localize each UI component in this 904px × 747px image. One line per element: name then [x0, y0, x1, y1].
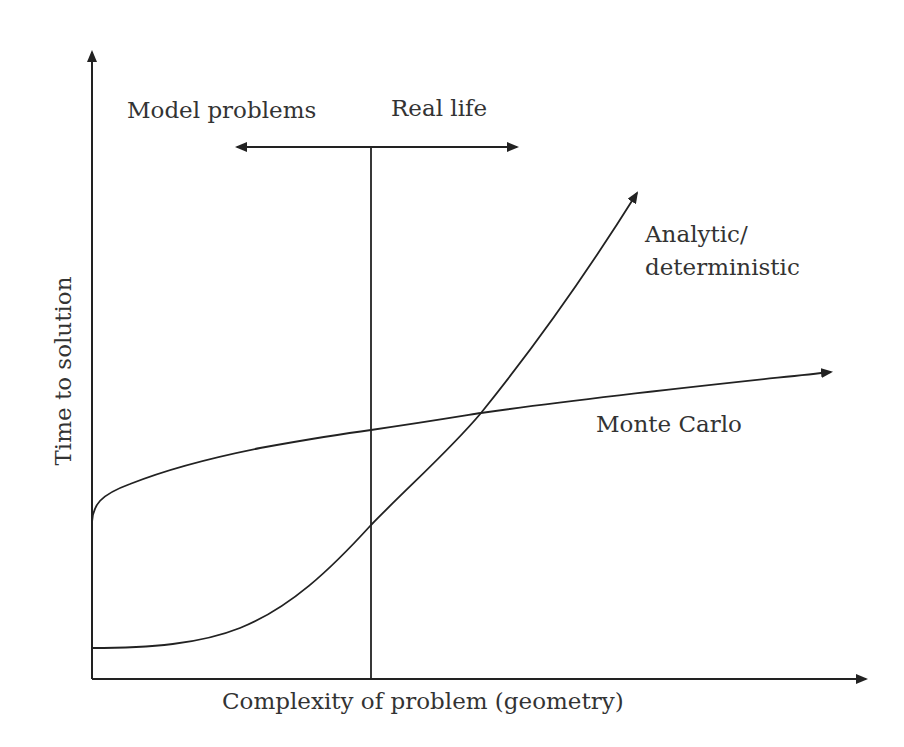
monte-carlo-label: Monte Carlo: [596, 411, 742, 439]
real-life-label: Real life: [391, 95, 487, 123]
y-axis-label: Time to solution: [50, 264, 76, 478]
analytic-label-line2: deterministic: [645, 254, 800, 282]
monte-carlo-curve: [92, 372, 831, 522]
analytic-label-line1: Analytic/: [645, 221, 748, 249]
model-problems-label: Model problems: [127, 97, 316, 125]
x-axis-label: Complexity of problem (geometry): [222, 688, 624, 716]
analytic-curve: [92, 193, 637, 648]
